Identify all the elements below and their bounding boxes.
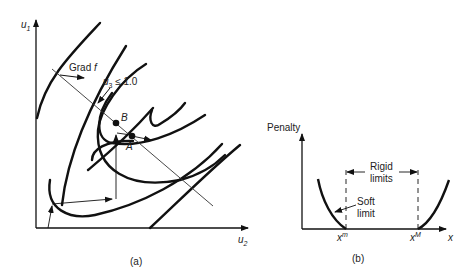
point-a-label: A <box>125 141 133 152</box>
caption-a: (a) <box>130 256 142 267</box>
soft-label-2: limit <box>357 208 375 219</box>
u1-label: u1 <box>21 19 31 32</box>
caption-b: (b) <box>352 253 364 264</box>
x-axis-label: x <box>447 232 454 243</box>
penalty-label: Penalty <box>267 122 300 133</box>
rigid-label-2: limits <box>370 173 393 184</box>
left-penalty-curve <box>318 179 346 229</box>
right-penalty-curve <box>418 180 449 229</box>
soft-limit-pointer <box>335 205 356 212</box>
xm-label: xm <box>336 231 348 243</box>
point-a-marker <box>129 133 136 140</box>
contour-lines <box>37 23 240 228</box>
point-b-marker <box>113 120 120 127</box>
grad-f-label: Grad f <box>69 62 98 73</box>
u2-label: u2 <box>238 234 248 247</box>
point-b-label: B <box>121 112 128 123</box>
rigid-label-1: Rigid <box>370 161 393 172</box>
figure: u1 u2 Grad f u3 ≤ 1.0 B A (a) Penalty Ri… <box>0 0 471 273</box>
grad-arrow <box>60 75 84 78</box>
inner-contour <box>99 93 205 144</box>
xM-label: xM <box>409 231 421 243</box>
panel-a: u1 u2 Grad f u3 ≤ 1.0 B A (a) <box>21 19 248 267</box>
panel-b: Penalty Rigid limits Soft limit xm xM x … <box>267 122 454 264</box>
soft-label-1: Soft <box>357 196 375 207</box>
